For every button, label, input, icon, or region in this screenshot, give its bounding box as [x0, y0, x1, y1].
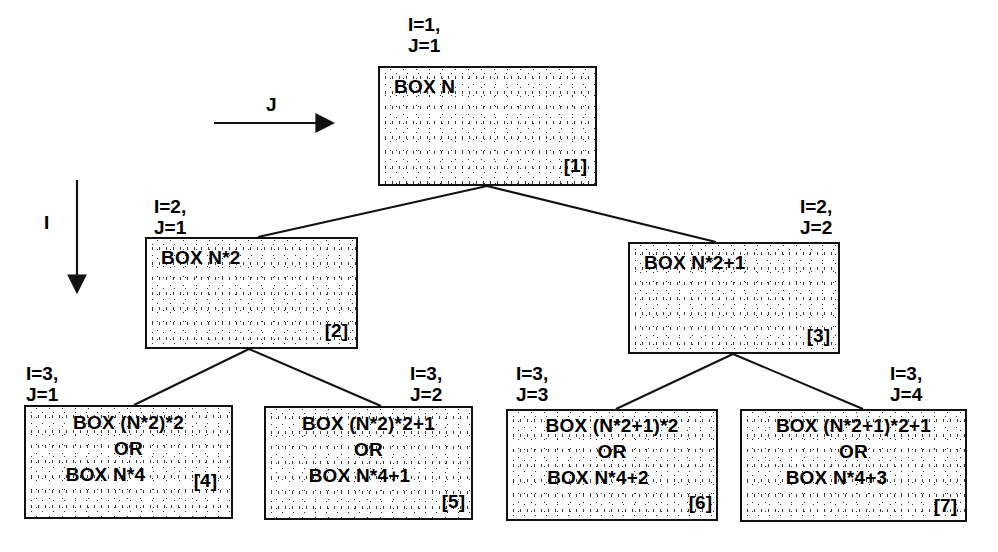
node-box-7[interactable]: BOX (N*2+1)*2+1 OR BOX N*4+3 [7] [740, 409, 967, 522]
node-box-2[interactable]: BOX N*2 [2] [145, 237, 358, 349]
ij-label-i: I=3, [890, 363, 922, 384]
ij-label-node-3: I=2, J=2 [800, 196, 832, 238]
ij-label-j: J=1 [26, 384, 58, 405]
node-5-text: BOX (N*2)*2+1 OR BOX N*4+1 [266, 411, 471, 489]
ij-label-j: J=4 [890, 384, 922, 405]
node-1-line-1: BOX N [380, 74, 595, 100]
node-7-line-2: OR [742, 439, 965, 465]
node-box-6[interactable]: BOX (N*2+1)*2 OR BOX N*4+2 [6] [506, 409, 718, 521]
node-6-line-1: BOX (N*2+1)*2 [508, 413, 716, 439]
edge-2-5 [249, 349, 381, 406]
tree-diagram: J I I=1, J=1 BOX N [1] I=2, J=1 BOX N*2 … [0, 0, 998, 552]
edge-3-7 [733, 354, 863, 409]
ij-label-j: J=3 [516, 384, 548, 405]
node-6-line-2: OR [508, 439, 716, 465]
edge-1-3 [487, 186, 716, 242]
edge-1-2 [258, 186, 487, 237]
node-1-text: BOX N [380, 74, 595, 100]
node-7-tag: [7] [934, 496, 957, 516]
node-1-tag: [1] [564, 156, 587, 176]
node-7-line-3: BOX N*4+3 [742, 465, 965, 491]
node-4-tag: [4] [194, 471, 217, 491]
node-2-line-1: BOX N*2 [147, 245, 356, 271]
ij-label-node-2: I=2, J=1 [154, 196, 186, 238]
ij-label-node-6: I=3, J=3 [516, 363, 548, 405]
j-axis-label: J [266, 94, 277, 116]
node-6-line-3: BOX N*4+2 [508, 465, 716, 491]
node-6-tag: [6] [689, 493, 712, 513]
ij-label-i: I=3, [26, 363, 58, 384]
ij-label-node-7: I=3, J=4 [890, 363, 922, 405]
ij-label-node-1: I=1, J=1 [408, 14, 440, 56]
node-7-text: BOX (N*2+1)*2+1 OR BOX N*4+3 [742, 413, 965, 491]
node-5-tag: [5] [442, 492, 465, 512]
node-box-1[interactable]: BOX N [1] [378, 66, 597, 186]
node-2-text: BOX N*2 [147, 245, 356, 271]
ij-label-node-4: I=3, J=1 [26, 363, 58, 405]
node-4-line-1: BOX (N*2)*2 [26, 410, 231, 436]
node-7-line-1: BOX (N*2+1)*2+1 [742, 413, 965, 439]
ij-label-i: I=3, [516, 363, 548, 384]
node-3-line-1: BOX N*2+1 [630, 250, 838, 276]
node-box-5[interactable]: BOX (N*2)*2+1 OR BOX N*4+1 [5] [264, 406, 473, 520]
node-3-tag: [3] [807, 326, 830, 346]
node-5-line-2: OR [266, 437, 471, 463]
node-2-tag: [2] [325, 321, 348, 341]
node-box-4[interactable]: BOX (N*2)*2 OR BOX N*4 [4] [24, 405, 233, 519]
ij-label-j: J=1 [408, 35, 440, 56]
node-6-text: BOX (N*2+1)*2 OR BOX N*4+2 [508, 413, 716, 491]
edge-2-4 [134, 349, 249, 405]
edge-3-6 [616, 354, 733, 409]
ij-label-j: J=2 [800, 217, 832, 238]
node-box-3[interactable]: BOX N*2+1 [3] [628, 242, 840, 354]
ij-label-i: I=1, [408, 14, 440, 35]
node-5-line-3: BOX N*4+1 [266, 463, 471, 489]
node-5-line-1: BOX (N*2)*2+1 [266, 411, 471, 437]
ij-label-node-5: I=3, J=2 [410, 363, 442, 405]
ij-label-j: J=1 [154, 217, 186, 238]
ij-label-i: I=2, [154, 196, 186, 217]
ij-label-j: J=2 [410, 384, 442, 405]
node-3-text: BOX N*2+1 [630, 250, 838, 276]
node-4-line-2: OR [26, 436, 231, 462]
ij-label-i: I=2, [800, 196, 832, 217]
i-axis-label: I [44, 212, 49, 234]
ij-label-i: I=3, [410, 363, 442, 384]
